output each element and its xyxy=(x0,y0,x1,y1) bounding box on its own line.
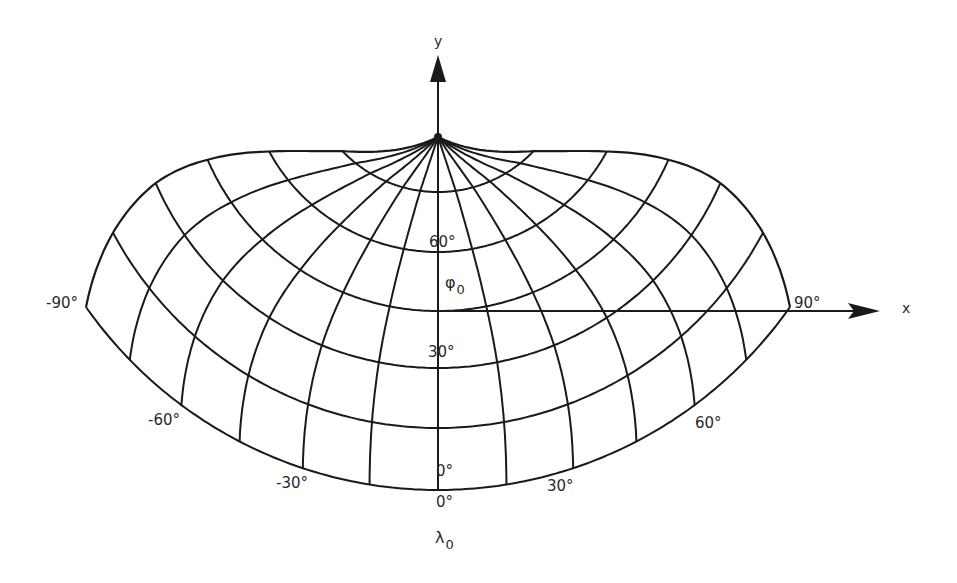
lambda-subscript: 0 xyxy=(445,537,453,552)
longitude-label-30: 30° xyxy=(547,479,574,494)
phi-subscript: 0 xyxy=(457,282,465,297)
latitude-label-60: 60° xyxy=(429,235,456,250)
latitude-label-30: 30° xyxy=(428,345,455,360)
longitude-label-minus-90: -90° xyxy=(46,296,78,311)
y-axis-arrowhead-icon xyxy=(430,55,446,82)
y-axis-label: y xyxy=(434,34,442,48)
meridian--45 xyxy=(240,137,438,442)
central-meridian-label: λ0 xyxy=(435,530,453,546)
meridians-group xyxy=(86,137,790,490)
pole-point xyxy=(434,133,442,141)
phi-symbol: φ xyxy=(445,273,456,292)
longitude-label-60: 60° xyxy=(695,416,722,431)
standard-parallel-label: φ0 xyxy=(445,275,464,291)
longitude-label-0: 0° xyxy=(436,495,453,510)
longitude-label-minus-30: -30° xyxy=(276,476,308,491)
meridian-45 xyxy=(438,137,636,442)
longitude-label-90: 90° xyxy=(794,296,821,311)
meridian--90 xyxy=(86,137,438,307)
latitude-label-0: 0° xyxy=(436,464,453,479)
x-axis-label: x xyxy=(902,301,910,315)
longitude-label-minus-60: -60° xyxy=(148,413,180,428)
lambda-symbol: λ xyxy=(435,528,444,547)
projection-diagram xyxy=(0,0,957,583)
meridian-90 xyxy=(438,137,790,307)
